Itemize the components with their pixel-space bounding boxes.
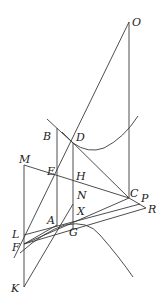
label-F: F	[11, 241, 20, 254]
label-L: L	[11, 228, 19, 241]
label-D: D	[75, 131, 85, 144]
upper-curve	[47, 116, 138, 150]
construction-lines	[14, 22, 146, 287]
label-O: O	[132, 16, 141, 29]
label-R: R	[147, 203, 156, 216]
label-M: M	[18, 153, 31, 166]
label-C: C	[130, 187, 139, 200]
geometry-figure: O B D M E H N C P R X A L G F K	[0, 0, 165, 308]
label-E: E	[46, 165, 55, 178]
label-A: A	[46, 214, 55, 227]
label-G: G	[69, 226, 78, 239]
label-N: N	[76, 189, 87, 202]
label-H: H	[75, 170, 86, 183]
label-B: B	[42, 130, 51, 143]
line-R-F	[24, 208, 146, 244]
label-X: X	[76, 205, 86, 218]
label-K: K	[10, 282, 20, 295]
